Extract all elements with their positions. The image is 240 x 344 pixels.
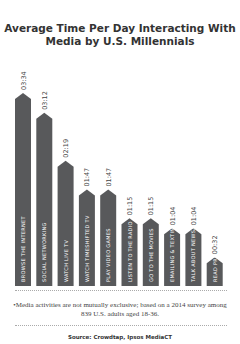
category-label: SOCIAL NETWORKING [41, 222, 47, 282]
value-label: 02:19 [62, 139, 70, 158]
value-label: 01:47 [105, 168, 113, 187]
category-label: EMAILING & TEXTING [169, 224, 175, 282]
value-label: 01:15 [126, 197, 134, 216]
value-label: 03:12 [41, 91, 49, 110]
category-label: BROWSE THE INTERNET [20, 216, 26, 282]
value-label: 01:04 [190, 207, 198, 226]
divider-top [15, 290, 227, 291]
category-label: WATCH TIMESHIFTED TV [84, 215, 90, 282]
bar-chart: BROWSE THE INTERNET03:34SOCIAL NETWORKIN… [0, 0, 240, 344]
value-label: 01:04 [169, 207, 177, 226]
category-label: LISTEN TO THE RADIO [127, 221, 133, 282]
value-label: 01:15 [147, 197, 155, 216]
value-label: 00:32 [211, 235, 219, 254]
category-label: WATCH LIVE TV [63, 240, 69, 282]
value-label: 03:34 [20, 71, 28, 90]
divider-bottom [15, 325, 227, 326]
category-label: PLAY VIDEO GAMES [105, 228, 111, 282]
value-label: 01:47 [83, 168, 91, 187]
footnote: •Media activities are not mutually exclu… [10, 301, 230, 319]
source-text: Source: Crowdtap, Ipsos MediaCT [0, 334, 240, 340]
category-label: GO TO THE MOVIES [148, 228, 154, 282]
